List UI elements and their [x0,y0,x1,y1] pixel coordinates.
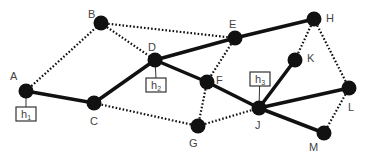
node-label-d: D [148,41,156,53]
dotted-edge-b-d [101,23,155,60]
node-label-c: C [90,115,98,127]
network-graph: h1h2h3 ABCDEFGHJKLM [0,0,368,157]
node-h [307,12,322,27]
node-label-k: K [307,52,315,64]
node-label-j: J [255,119,261,131]
node-g [191,119,206,134]
node-f [200,75,215,90]
node-labels: ABCDEFGHJKLM [10,8,354,153]
solid-edge-e-h [235,19,314,38]
node-label-f: F [216,74,223,86]
dotted-edges [26,19,349,133]
node-m [317,126,332,141]
node-d [148,53,163,68]
dotted-edge-h-l [314,19,349,88]
nodes [19,12,357,141]
node-e [228,31,243,46]
host-box-h3: h3 [250,72,270,86]
node-a [19,84,34,99]
node-label-e: E [229,18,236,30]
host-box-h2: h2 [146,78,166,92]
node-k [288,53,303,68]
dotted-edge-l-m [324,88,349,133]
dotted-edge-g-c [94,103,198,126]
node-label-h: H [326,12,334,24]
dotted-edge-a-b [26,23,101,91]
solid-edges [26,19,349,133]
dotted-edge-b-e [101,23,235,38]
node-label-b: B [88,8,95,20]
host-box-h1: h1 [16,107,36,121]
node-label-g: G [189,137,198,149]
network-diagram: h1h2h3 ABCDEFGHJKLM [0,0,368,157]
solid-edge-j-m [259,108,324,133]
node-b [94,16,109,31]
node-l [342,81,357,96]
node-label-l: L [348,101,354,113]
dotted-edge-g-j [198,108,259,126]
node-j [252,101,267,116]
node-label-m: M [309,141,318,153]
node-c [87,96,102,111]
solid-edge-a-c [26,91,94,103]
node-label-a: A [10,70,18,82]
